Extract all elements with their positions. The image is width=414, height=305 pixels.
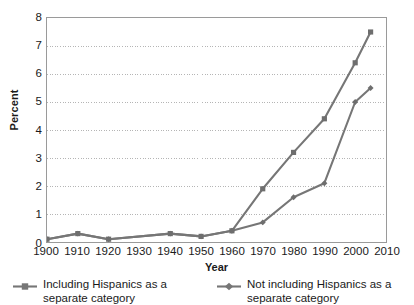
data-point xyxy=(260,186,265,191)
y-tick-label: 2 xyxy=(2,181,42,192)
legend-entry-1[interactable]: Not including Hispanics as a separate ca… xyxy=(216,278,402,305)
chart-legend: Including Hispanics as a separate catego… xyxy=(0,278,414,305)
y-tick-label: 7 xyxy=(2,40,42,51)
data-point xyxy=(322,116,327,121)
y-tick-label: 8 xyxy=(2,12,42,23)
y-tick-label: 4 xyxy=(2,125,42,136)
series-line-0 xyxy=(47,32,371,239)
square-marker-icon xyxy=(12,279,38,292)
legend-label: Including Hispanics as a separate catego… xyxy=(43,278,198,305)
y-tick-label: 5 xyxy=(2,96,42,107)
plot-area xyxy=(46,17,387,243)
legend-entry-0[interactable]: Including Hispanics as a separate catego… xyxy=(12,278,198,305)
legend-label: Not including Hispanics as a separate ca… xyxy=(247,278,402,305)
x-tick-label: 2010 xyxy=(365,245,409,258)
y-tick-label: 3 xyxy=(2,153,42,164)
data-point xyxy=(368,29,373,34)
data-point xyxy=(291,150,296,155)
x-axis-tick-labels: 1900191019201930194019501960197019801990… xyxy=(46,245,387,261)
series-line-1 xyxy=(47,88,371,239)
data-point xyxy=(353,60,358,65)
y-tick-label: 6 xyxy=(2,68,42,79)
diamond-marker-icon xyxy=(216,279,242,292)
y-tick-label: 1 xyxy=(2,209,42,220)
plot-svg xyxy=(47,18,386,242)
y-axis-tick-labels: 012345678 xyxy=(0,17,42,243)
x-axis-title: Year xyxy=(46,261,387,273)
